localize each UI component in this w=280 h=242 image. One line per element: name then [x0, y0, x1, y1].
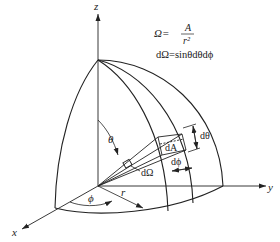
axes: [22, 14, 266, 229]
z-label: z: [93, 0, 99, 12]
d-omega-label: dΩ: [141, 167, 153, 178]
differential-equation: dΩ=sinθdθdϕ: [156, 49, 214, 60]
meridian-yz: [98, 60, 223, 186]
x-axis: [22, 186, 98, 229]
omega-equation-lhs: Ω=: [154, 27, 169, 39]
d-theta-label: dθ: [200, 130, 210, 141]
x-label: x: [11, 226, 17, 238]
phi-label: ϕ: [88, 192, 94, 204]
theta-label: θ: [108, 133, 114, 145]
radius-label: r: [121, 186, 126, 198]
d-phi-label: dϕ: [171, 156, 181, 167]
solid-angle-diagram: z y x θ ϕ r dA dΩ dθ dϕ Ω= A r² dΩ=sinθd…: [0, 0, 280, 242]
sphere-octant: [55, 60, 223, 213]
meridian-xz: [55, 60, 98, 208]
omega-denominator: r²: [183, 35, 191, 46]
omega-numerator: A: [184, 22, 192, 33]
equator-arc: [55, 186, 223, 213]
y-label: y: [267, 181, 273, 193]
meridian-inner-2: [98, 60, 193, 203]
dA-label: dA: [165, 142, 178, 153]
d-omega-square: [123, 159, 132, 168]
